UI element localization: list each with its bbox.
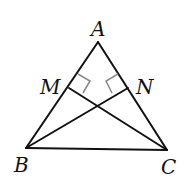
triangle-diagram: A M N B C <box>0 0 187 181</box>
label-a: A <box>89 17 105 41</box>
segment-ab <box>26 42 98 148</box>
right-angle-mark-m <box>78 74 90 93</box>
label-n: N <box>135 75 155 99</box>
segment-bc <box>26 148 167 150</box>
label-c: C <box>161 155 176 179</box>
label-b: B <box>13 153 29 177</box>
right-angle-mark-n <box>106 74 118 93</box>
segment-ac <box>98 42 167 150</box>
label-m: M <box>39 75 61 99</box>
